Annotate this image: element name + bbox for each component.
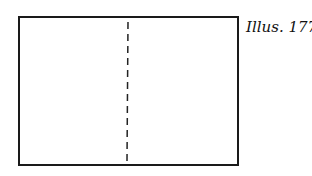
illustration-label: Illus. 177 — [246, 18, 312, 36]
